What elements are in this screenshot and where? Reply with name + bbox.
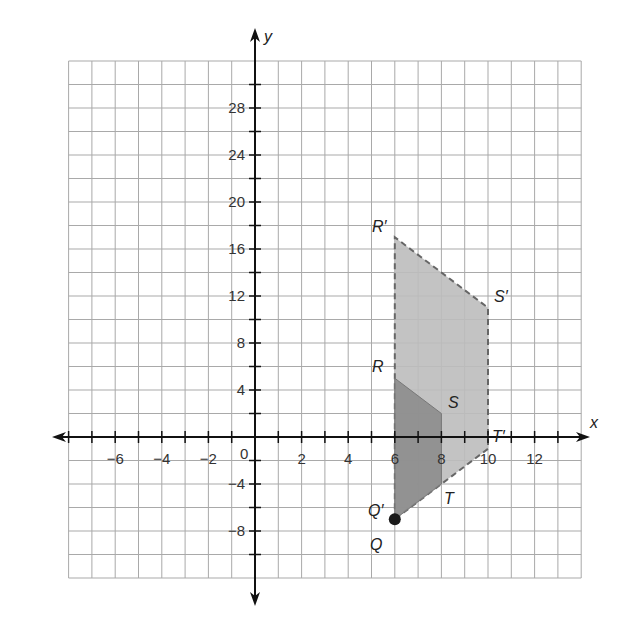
x-tick-label: 4 xyxy=(344,450,352,467)
vertex-label-r: R xyxy=(372,358,384,375)
vertex-label-t: T xyxy=(444,490,455,507)
y-tick-label: 28 xyxy=(228,99,245,116)
y-tick-label: 20 xyxy=(228,193,245,210)
x-tick-label: 12 xyxy=(526,450,543,467)
x-tick-label: −6 xyxy=(107,450,124,467)
x-tick-label: 10 xyxy=(480,450,497,467)
vertex-label-s-prime: S′ xyxy=(494,288,509,305)
vertex-label-t-prime: T′ xyxy=(492,428,506,445)
vertex-label-s: S xyxy=(448,394,459,411)
x-tick-label: 2 xyxy=(297,450,305,467)
x-axis-label: x xyxy=(589,414,599,431)
vertex-label-r-prime: R′ xyxy=(372,218,388,235)
shapes xyxy=(389,237,488,525)
x-tick-label: 8 xyxy=(437,450,445,467)
grid xyxy=(69,61,582,578)
origin-label: 0 xyxy=(240,445,248,462)
x-tick-label: 6 xyxy=(391,450,399,467)
y-tick-label: 12 xyxy=(228,287,245,304)
y-tick-label: 16 xyxy=(228,240,245,257)
point-q-marker xyxy=(389,513,401,525)
y-tick-label: 8 xyxy=(237,334,245,351)
coordinate-plane: −6−4−224681012−8−4481216202428 y x 0 R′ … xyxy=(0,0,636,644)
vertex-label-q: Q xyxy=(370,536,382,553)
y-tick-label: 4 xyxy=(237,381,245,398)
axes xyxy=(52,28,590,606)
y-tick-label: 24 xyxy=(228,146,245,163)
x-tick-label: −2 xyxy=(200,450,217,467)
vertex-label-q-prime: Q′ xyxy=(368,502,384,519)
x-tick-label: −4 xyxy=(153,450,170,467)
y-axis-label: y xyxy=(263,28,273,45)
y-tick-label: −4 xyxy=(228,475,245,492)
y-tick-label: −8 xyxy=(228,522,245,539)
